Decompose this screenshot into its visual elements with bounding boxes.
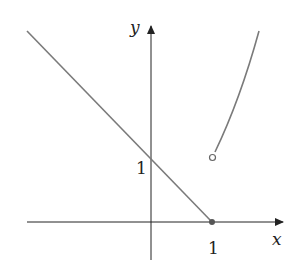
x-axis-label: x bbox=[272, 229, 282, 249]
open-endpoint-circle bbox=[210, 155, 216, 161]
line-piece bbox=[27, 31, 212, 222]
graph-canvas: y x 1 1 bbox=[0, 0, 304, 279]
x-tick-label: 1 bbox=[208, 238, 219, 258]
closed-endpoint-dot bbox=[209, 219, 215, 225]
y-axis-label: y bbox=[129, 17, 140, 37]
curve-piece bbox=[215, 31, 259, 152]
y-tick-label: 1 bbox=[136, 158, 147, 178]
